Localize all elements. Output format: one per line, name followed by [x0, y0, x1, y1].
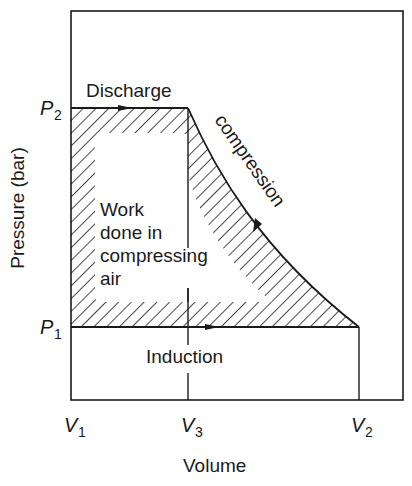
svg-text:V: V	[64, 414, 79, 436]
pv-diagram: Discharge compression Induction Work don…	[0, 0, 412, 486]
y-axis-label: Pressure (bar)	[7, 147, 28, 268]
svg-text:3: 3	[195, 424, 203, 440]
svg-text:P: P	[40, 316, 54, 338]
x-tick-v1: V 1	[64, 414, 86, 440]
diagram-canvas: Discharge compression Induction Work don…	[0, 0, 412, 486]
svg-text:V: V	[351, 414, 366, 436]
svg-text:P: P	[40, 97, 54, 119]
x-tick-v3: V 3	[181, 414, 203, 440]
svg-text:V: V	[181, 414, 196, 436]
svg-text:2: 2	[54, 107, 62, 123]
svg-text:done in: done in	[100, 222, 162, 243]
discharge-label: Discharge	[86, 80, 172, 101]
svg-text:Work: Work	[100, 199, 144, 220]
svg-text:1: 1	[78, 424, 86, 440]
y-tick-p2: P 2	[40, 97, 62, 123]
y-tick-p1: P 1	[40, 316, 62, 342]
x-axis-label: Volume	[183, 455, 246, 476]
svg-text:2: 2	[365, 424, 373, 440]
svg-text:air: air	[100, 268, 122, 289]
induction-label: Induction	[146, 346, 223, 367]
x-tick-v2: V 2	[351, 414, 373, 440]
svg-text:1: 1	[54, 326, 62, 342]
svg-text:compressing: compressing	[100, 245, 208, 266]
